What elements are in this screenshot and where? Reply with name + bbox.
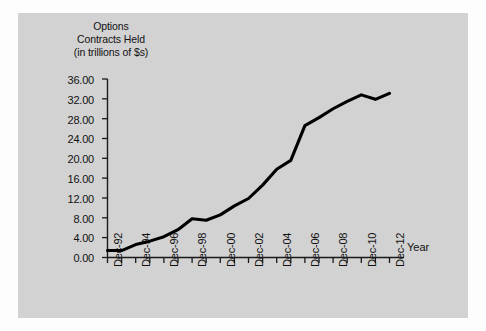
y-axis-tick-label: 32.00 (42, 94, 94, 106)
y-axis-tick-label: 36.00 (42, 74, 94, 86)
x-axis-tick-label: Dec-04 (281, 233, 293, 267)
y-axis-tick-label: 4.00 (42, 232, 94, 244)
y-axis-tick-label: 12.00 (42, 193, 94, 205)
y-axis-tick-label: 28.00 (42, 114, 94, 126)
chart-title-line-2: Contracts Held (46, 33, 176, 46)
y-axis-tick-label: 24.00 (42, 133, 94, 145)
x-axis-tick-label: Dec-12 (394, 233, 406, 267)
x-axis-tick-label: Dec-02 (253, 233, 265, 267)
x-axis-tick-label: Dec-94 (140, 233, 152, 267)
x-axis-tick-label: Dec-96 (168, 233, 180, 267)
x-axis-tick-label: Dec-08 (337, 233, 349, 267)
y-axis-tick-label: 20.00 (42, 153, 94, 165)
figure-canvas: Options Contracts Held (in trillions of … (0, 0, 486, 331)
chart-title-line-1: Options (46, 20, 176, 33)
x-axis-tick-label: Dec-92 (112, 233, 124, 267)
x-axis-tick-label: Dec-06 (309, 233, 321, 267)
x-axis-tick-label: Dec-10 (366, 233, 378, 267)
x-axis-title: Year (407, 241, 429, 253)
x-axis-tick-label: Dec-98 (196, 233, 208, 267)
y-axis-tick-label: 8.00 (42, 213, 94, 225)
x-axis-tick-label: Dec-00 (225, 233, 237, 267)
chart-title-line-3: (in trillions of $s) (46, 46, 176, 59)
chart-title: Options Contracts Held (in trillions of … (46, 20, 176, 60)
y-axis-tick-label: 16.00 (42, 173, 94, 185)
y-axis-tick-label: 0.00 (42, 252, 94, 264)
